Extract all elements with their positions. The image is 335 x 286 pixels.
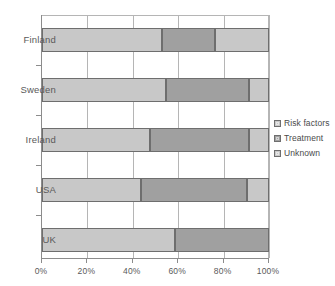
x-axis-tick bbox=[177, 258, 178, 263]
x-axis-tick bbox=[223, 258, 224, 263]
chart-legend: Risk factorsTreatmentUnknown bbox=[274, 117, 335, 162]
x-axis-tick-label: 40% bbox=[112, 266, 152, 276]
x-axis-tick bbox=[86, 258, 87, 263]
bar-segment bbox=[42, 128, 150, 152]
legend-label: Unknown bbox=[284, 149, 320, 158]
bar-segment bbox=[42, 78, 166, 102]
y-axis-tick bbox=[36, 115, 41, 116]
legend-label: Risk factors bbox=[284, 119, 330, 128]
bar-row bbox=[42, 28, 269, 52]
bar-segment bbox=[247, 178, 269, 202]
legend-item[interactable]: Treatment bbox=[274, 132, 335, 145]
x-axis-line bbox=[41, 258, 269, 259]
y-axis-tick bbox=[36, 165, 41, 166]
bar-segment bbox=[42, 28, 162, 52]
x-axis-tick-label: 80% bbox=[203, 266, 243, 276]
legend-swatch-icon bbox=[274, 120, 281, 127]
plot-area bbox=[41, 15, 269, 258]
bar-segment bbox=[166, 78, 249, 102]
x-axis-tick-label: 20% bbox=[66, 266, 106, 276]
legend-item[interactable]: Unknown bbox=[274, 147, 335, 160]
y-axis-label-ireland: Ireland bbox=[0, 134, 56, 145]
x-axis-tick bbox=[132, 258, 133, 263]
bar-segment bbox=[215, 28, 269, 52]
y-axis-label-usa: USA bbox=[0, 184, 56, 195]
legend-label: Treatment bbox=[284, 134, 323, 143]
stacked-bar-chart: FinlandSwedenIrelandUSAUK 0%20%40%60%80%… bbox=[0, 0, 335, 286]
x-axis-tick-label: 0% bbox=[21, 266, 61, 276]
bar-row bbox=[42, 228, 269, 252]
gridline bbox=[269, 15, 270, 258]
x-axis-tick bbox=[41, 258, 42, 263]
bar-row bbox=[42, 128, 269, 152]
x-axis-tick-label: 60% bbox=[157, 266, 197, 276]
bar-segment bbox=[42, 228, 175, 252]
legend-swatch-icon bbox=[274, 150, 281, 157]
bar-row bbox=[42, 178, 269, 202]
y-axis-tick bbox=[36, 215, 41, 216]
bar-segment bbox=[42, 178, 141, 202]
bar-segment bbox=[249, 128, 269, 152]
y-axis-label-uk: UK bbox=[0, 234, 56, 245]
bar-segment bbox=[141, 178, 248, 202]
bar-segment bbox=[249, 78, 269, 102]
y-axis-label-finland: Finland bbox=[0, 34, 56, 45]
y-axis-label-sweden: Sweden bbox=[0, 84, 56, 95]
legend-swatch-icon bbox=[274, 135, 281, 142]
x-axis-tick bbox=[268, 258, 269, 263]
bar-segment bbox=[175, 228, 269, 252]
bar-segment bbox=[162, 28, 214, 52]
y-axis-tick bbox=[36, 65, 41, 66]
bar-row bbox=[42, 78, 269, 102]
legend-item[interactable]: Risk factors bbox=[274, 117, 335, 130]
bar-segment bbox=[150, 128, 249, 152]
x-axis-tick-label: 100% bbox=[248, 266, 288, 276]
